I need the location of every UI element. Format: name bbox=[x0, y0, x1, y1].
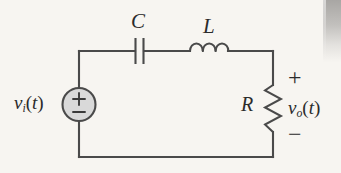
input-voltage-argument: (t) bbox=[26, 92, 44, 113]
inductor-label: L bbox=[203, 16, 215, 37]
inductor-coil-2 bbox=[203, 43, 216, 51]
inductor-coil-1 bbox=[190, 43, 203, 51]
input-voltage-label: vi(t) bbox=[14, 93, 44, 112]
inductor-icon bbox=[190, 43, 228, 51]
output-polarity-minus: − bbox=[288, 122, 302, 146]
resistor-zigzag bbox=[265, 85, 281, 132]
circuit-figure: C L R vi(t) vo(t) + − bbox=[0, 0, 341, 173]
output-voltage-argument: (t) bbox=[302, 97, 320, 118]
capacitor-icon bbox=[136, 38, 144, 64]
capacitor-label: C bbox=[131, 11, 145, 32]
inductor-coil-3 bbox=[216, 43, 229, 51]
voltage-source-icon bbox=[63, 88, 96, 121]
resistor-label: R bbox=[241, 94, 253, 114]
output-voltage-label: vo(t) bbox=[288, 98, 320, 117]
output-polarity-plus: + bbox=[288, 65, 302, 89]
resistor-icon bbox=[265, 85, 281, 132]
